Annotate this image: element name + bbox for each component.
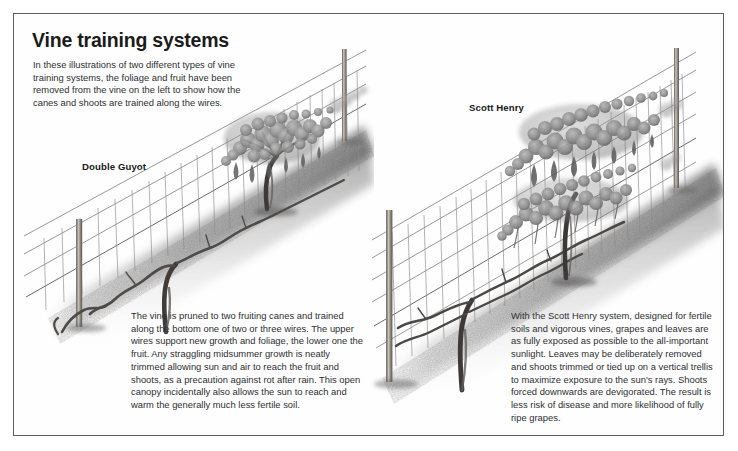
page-title: Vine training systems	[32, 29, 229, 52]
double-guyot-label: Double Guyot	[82, 161, 146, 172]
page-root: Vine training systems In these illustrat…	[0, 0, 738, 451]
scott-henry-label: Scott Henry	[469, 102, 524, 113]
scott-henry-caption: With the Scott Henry system, designed fo…	[511, 310, 716, 424]
double-guyot-caption: The vine is pruned to two fruiting canes…	[131, 310, 364, 412]
illustration-frame: Vine training systems In these illustrat…	[13, 13, 724, 436]
intro-paragraph: In these illustrations of two different …	[33, 59, 255, 109]
